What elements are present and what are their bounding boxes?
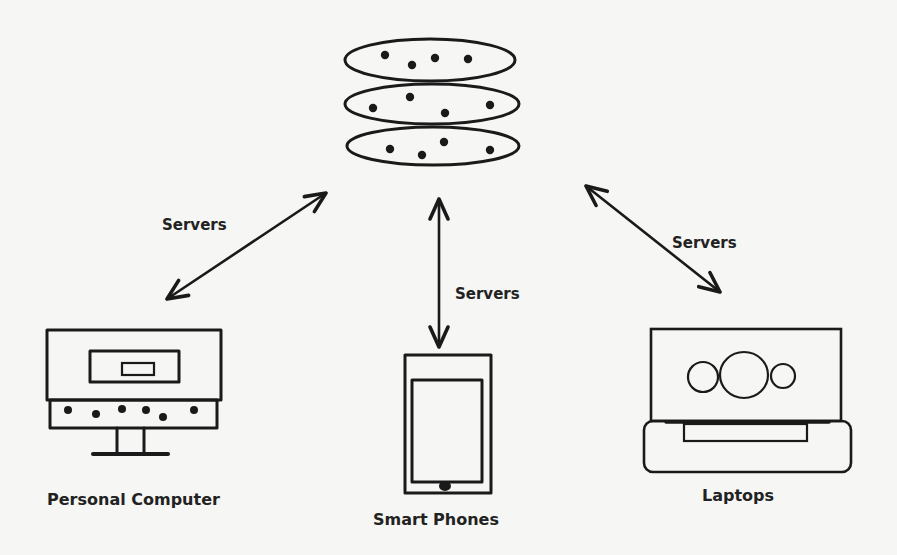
panel-dot bbox=[118, 405, 126, 413]
logo-center-circle bbox=[720, 352, 768, 398]
disk-dot bbox=[406, 93, 414, 101]
panel-dot bbox=[190, 406, 198, 414]
disk-dot bbox=[408, 61, 416, 69]
network-diagram: Servers Servers Servers Personal Compute… bbox=[0, 0, 897, 555]
disk-dot bbox=[369, 104, 377, 112]
smart-phones-label: Smart Phones bbox=[373, 512, 499, 528]
server-disk-3 bbox=[347, 127, 519, 165]
diagram-canvas bbox=[0, 0, 897, 555]
monitor-frame bbox=[47, 330, 221, 400]
trackpad bbox=[684, 424, 807, 441]
arrow-label-left: Servers bbox=[162, 218, 227, 233]
server-disk-1 bbox=[345, 39, 515, 81]
panel-dot bbox=[142, 406, 150, 414]
server-stack-icon bbox=[345, 39, 519, 165]
laptop-base bbox=[644, 421, 851, 472]
disk-dot bbox=[440, 138, 448, 146]
laptop-screen bbox=[651, 329, 841, 421]
disk-dot bbox=[486, 146, 494, 154]
connection-arrows bbox=[167, 186, 720, 347]
phone-body bbox=[405, 355, 491, 493]
monitor-inner-box bbox=[122, 363, 154, 375]
panel-dots bbox=[64, 405, 198, 421]
disk-dot bbox=[381, 51, 389, 59]
disk-dot bbox=[418, 151, 426, 159]
logo-right-circle bbox=[771, 364, 795, 388]
arrow-shaft bbox=[167, 193, 326, 299]
arrow-center bbox=[430, 199, 448, 347]
panel-dot bbox=[64, 406, 72, 414]
arrowhead-icon bbox=[304, 193, 326, 212]
monitor-window bbox=[90, 351, 179, 382]
smart-phone-icon bbox=[405, 355, 491, 493]
laptops-label: Laptops bbox=[702, 488, 774, 504]
laptop-icon bbox=[644, 329, 851, 472]
logo-left-circle bbox=[688, 362, 718, 392]
arrow-left bbox=[167, 193, 326, 299]
disk-dot bbox=[486, 101, 494, 109]
disk-dot bbox=[441, 109, 449, 117]
arrow-label-center: Servers bbox=[455, 287, 520, 302]
disk-dot bbox=[464, 55, 472, 63]
computer-base-panel bbox=[50, 400, 217, 428]
arrow-label-right: Servers bbox=[672, 236, 737, 251]
disk-dot bbox=[386, 145, 394, 153]
disk-dot bbox=[431, 54, 439, 62]
personal-computer-label: Personal Computer bbox=[47, 492, 220, 508]
arrowhead-icon bbox=[167, 280, 189, 299]
panel-dot bbox=[159, 413, 167, 421]
phone-screen bbox=[412, 380, 482, 482]
panel-dot bbox=[92, 410, 100, 418]
home-button-icon bbox=[439, 481, 451, 491]
personal-computer-icon bbox=[47, 330, 221, 454]
